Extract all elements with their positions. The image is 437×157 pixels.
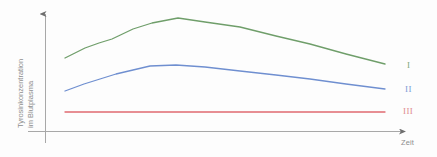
- y-axis-label: Tyrosinkonzentration im Blutplasma: [0, 0, 44, 134]
- x-axis-label: Zeit: [401, 138, 414, 147]
- series-line-II: [65, 65, 385, 91]
- y-axis-label-line2: im Blutplasma: [26, 8, 36, 128]
- legend-item-iii: III: [403, 106, 413, 116]
- legend-item-i: I: [407, 60, 410, 70]
- y-axis-label-line1: Tyrosinkonzentration: [16, 8, 26, 128]
- chart-container: Tyrosinkonzentration im Blutplasma Zeit …: [0, 0, 437, 157]
- chart-plot-area: [0, 0, 437, 157]
- legend-item-ii: II: [405, 84, 412, 94]
- series-line-I: [65, 18, 385, 64]
